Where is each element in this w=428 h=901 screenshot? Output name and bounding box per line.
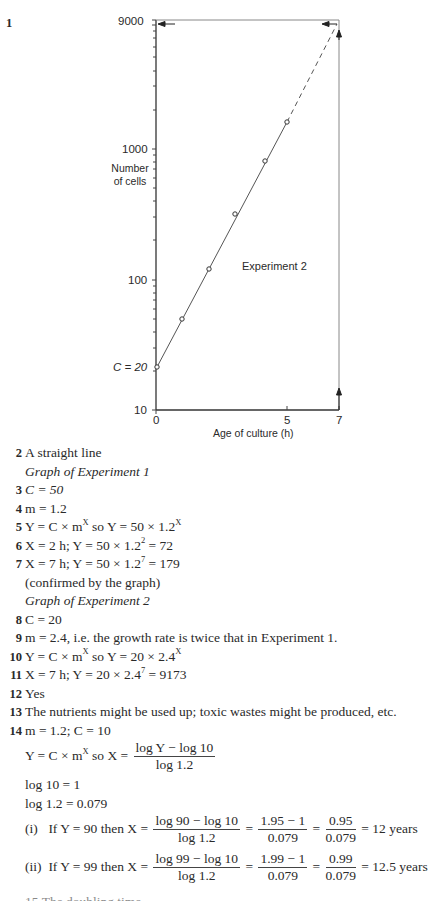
data-point bbox=[263, 159, 267, 163]
answer-text: X = 2 h; Y = 50 × 1.22 = 72 bbox=[25, 537, 173, 556]
q14-log10: log 10 = 1 bbox=[0, 776, 420, 795]
answer-10: 10Y = C × mX so Y = 20 × 2.4X bbox=[0, 648, 420, 667]
arrows bbox=[158, 22, 342, 411]
answer-11: 11X = 7 h; Y = 20 × 2.47 = 9173 bbox=[0, 666, 420, 685]
arrow-head-up-bottom bbox=[337, 388, 342, 395]
formula-fraction: log Y − log 10log 1.2 bbox=[134, 740, 216, 773]
cut-off-line: 15 The doubling time... bbox=[0, 889, 420, 901]
x-tick-label-7: 7 bbox=[336, 414, 342, 426]
y-tick-label-1000: 1000 bbox=[122, 143, 148, 155]
part-result: = 12 years bbox=[361, 820, 417, 839]
part-label: (ii) bbox=[25, 858, 45, 877]
q14-formula: Y = C × mX so X = log Y − log 10log 1.2 bbox=[0, 740, 420, 776]
x-axis-label: Age of culture (h) bbox=[213, 427, 294, 439]
answer-7-note: (confirmed by the graph) bbox=[0, 574, 420, 593]
fraction-3: 0.950.079 bbox=[326, 813, 356, 846]
answer-text: Y = C × mX so Y = 50 × 1.2X bbox=[25, 518, 181, 537]
data-point bbox=[180, 317, 184, 321]
formula-lhs: Y = C × mX so X = bbox=[25, 747, 128, 766]
data-point bbox=[155, 365, 159, 369]
answer-text: (confirmed by the graph) bbox=[25, 574, 160, 593]
x-tick-label-0: 0 bbox=[153, 414, 159, 426]
part-label: (i) bbox=[25, 820, 45, 839]
answer-4: 4m = 1.2 bbox=[0, 500, 420, 519]
answer-text: Y = C × mX so Y = 20 × 2.4X bbox=[25, 648, 181, 667]
data-point bbox=[285, 120, 289, 124]
arrow-head-left-axis bbox=[158, 22, 165, 27]
answer-text: m = 1.2; C = 10 bbox=[25, 722, 111, 741]
answer-text: C = 50 bbox=[25, 481, 63, 500]
answer-5: 5Y = C × mX so Y = 50 × 1.2X bbox=[0, 518, 420, 537]
part-result: = 12.5 years bbox=[361, 858, 427, 877]
answer-text: m = 1.2 bbox=[25, 500, 67, 519]
answer-text: X = 7 h; Y = 20 × 2.47 = 9173 bbox=[25, 666, 187, 685]
answer-text: m = 2.4, i.e. the growth rate is twice t… bbox=[25, 629, 337, 648]
arrow-head-left-top bbox=[322, 22, 329, 27]
answer-13: 13The nutrients might be used up; toxic … bbox=[0, 703, 420, 722]
answer-7: 7X = 7 h; Y = 50 × 1.27 = 179 bbox=[0, 555, 420, 574]
x-tick-label-5: 5 bbox=[284, 414, 290, 426]
extrapolation-line bbox=[287, 24, 337, 122]
fraction-2: 1.99 − 10.079 bbox=[258, 851, 307, 884]
answer-text: X = 7 h; Y = 50 × 1.27 = 179 bbox=[25, 555, 180, 574]
answer-text: A straight line bbox=[25, 444, 102, 463]
fraction-1: log 99 − log 10log 1.2 bbox=[153, 851, 240, 884]
subheading: Graph of Experiment 2 bbox=[25, 592, 150, 611]
y-axis-label: Number of cells bbox=[100, 162, 160, 188]
data-point bbox=[233, 212, 237, 216]
answer-8: 8C = 20 bbox=[0, 611, 420, 630]
heading-experiment-2: Graph of Experiment 2 bbox=[0, 592, 420, 611]
answer-text: Yes bbox=[25, 685, 45, 704]
fit-line bbox=[157, 122, 287, 367]
answer-12: 12Yes bbox=[0, 685, 420, 704]
fraction-1: log 90 − log 10log 1.2 bbox=[153, 813, 240, 846]
part-lhs: If Y = 99 then X = bbox=[48, 858, 148, 877]
subheading: Graph of Experiment 1 bbox=[25, 463, 150, 482]
fraction-2: 1.95 − 10.079 bbox=[258, 813, 307, 846]
answers-section: 2A straight line Graph of Experiment 1 3… bbox=[0, 440, 420, 901]
answer-9: 9m = 2.4, i.e. the growth rate is twice … bbox=[0, 629, 420, 648]
part-lhs: If Y = 90 then X = bbox=[48, 820, 148, 839]
chart-title-experiment-2: Experiment 2 bbox=[242, 260, 307, 272]
y-intercept-label: C = 20 bbox=[113, 361, 147, 373]
chart-canvas bbox=[0, 0, 420, 440]
y-tick-label-100: 100 bbox=[128, 274, 147, 286]
answer-text: C = 20 bbox=[25, 611, 62, 630]
q14-log12: log 1.2 = 0.079 bbox=[0, 795, 420, 814]
answer-14: 14m = 1.2; C = 10 bbox=[0, 722, 420, 741]
growth-chart: 9000 1000 100 10 C = 20 Number of cells … bbox=[0, 0, 420, 440]
q14-part-i: (i) If Y = 90 then X = log 90 − log 10lo… bbox=[0, 813, 420, 851]
answer-text: The nutrients might be used up; toxic wa… bbox=[25, 703, 397, 722]
fraction-3: 0.990.079 bbox=[326, 851, 356, 884]
answer-6: 6X = 2 h; Y = 50 × 1.22 = 72 bbox=[0, 537, 420, 556]
y-tick-label-9000: 9000 bbox=[118, 15, 144, 27]
answer-2: 2A straight line bbox=[0, 444, 420, 463]
y-axis-label-text: Number of cells bbox=[108, 162, 152, 188]
data-point bbox=[207, 267, 211, 271]
q14-part-ii: (ii) If Y = 99 then X = log 99 − log 10l… bbox=[0, 851, 420, 889]
answer-3: 3C = 50 bbox=[0, 481, 420, 500]
y-tick-label-10: 10 bbox=[134, 404, 147, 416]
arrow-head-up-top bbox=[337, 30, 342, 37]
heading-experiment-1: Graph of Experiment 1 bbox=[0, 463, 420, 482]
